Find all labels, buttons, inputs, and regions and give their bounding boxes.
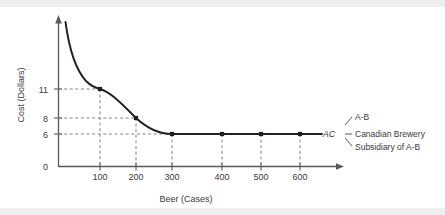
y-tick-label-0: 0 [43, 162, 48, 172]
legend-item-subsidiary: Subsidiary of A-B [355, 142, 421, 152]
y-axis [55, 15, 62, 167]
cost-curve [66, 22, 323, 134]
x-tick-label-100: 100 [92, 172, 107, 182]
y-tick-label-6: 6 [43, 130, 48, 140]
y-axis-title: Cost (Dollars) [16, 67, 26, 122]
x-tick-label-400: 400 [214, 172, 229, 182]
guide-lines [59, 89, 301, 166]
x-tick-label-500: 500 [253, 172, 268, 182]
x-tick-label-200: 200 [128, 172, 143, 182]
chart-figure: 11 8 6 0 100 200 300 400 500 600 Beer (C… [0, 0, 445, 215]
y-tick-label-8: 8 [43, 114, 48, 124]
legend-key-ac: AC [322, 129, 336, 139]
x-tick-label-600: 600 [292, 172, 307, 182]
x-axis [59, 163, 345, 170]
legend-item-canadian-brewery: Canadian Brewery [355, 129, 426, 139]
y-tick-label-11: 11 [39, 85, 48, 95]
average-cost-curve-chart: 11 8 6 0 100 200 300 400 500 600 Beer (C… [0, 0, 445, 215]
legend-bracket [345, 117, 352, 146]
x-axis-title: Beer (Cases) [159, 194, 212, 204]
legend-item-ab: A-B [355, 112, 370, 122]
x-tick-label-300: 300 [164, 172, 179, 182]
